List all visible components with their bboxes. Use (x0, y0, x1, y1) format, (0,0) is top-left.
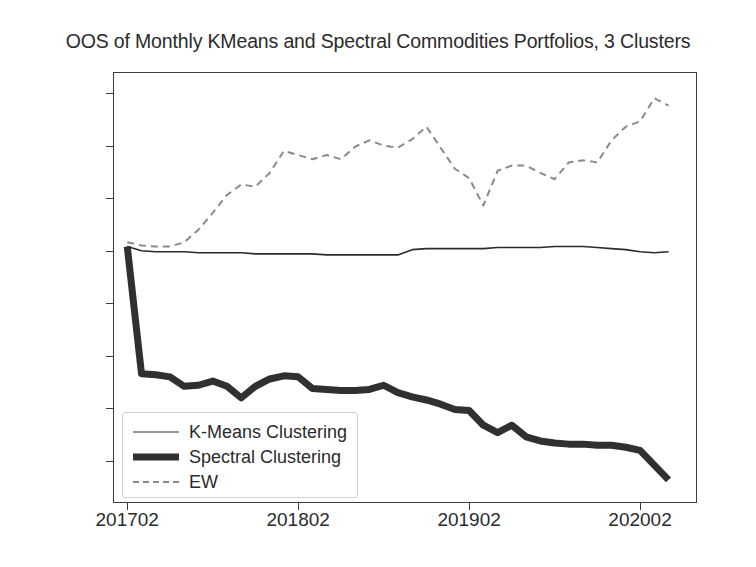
chart-legend: K-Means ClusteringSpectral ClusteringEW (122, 412, 358, 498)
x-axis-tick-label: 201902 (437, 509, 500, 531)
y-axis-tick-mark (106, 461, 113, 462)
y-axis-tick-mark (106, 356, 113, 357)
y-axis-tick-mark (106, 408, 113, 409)
legend-item[interactable]: K-Means Clustering (133, 420, 347, 444)
chart-figure: OOS of Monthly KMeans and Spectral Commo… (0, 0, 756, 567)
x-axis-tick-mark (640, 503, 641, 510)
chart-title: OOS of Monthly KMeans and Spectral Commo… (0, 30, 756, 53)
series-line (127, 98, 668, 246)
y-axis-tick-mark (106, 198, 113, 199)
legend-item-label: Spectral Clustering (189, 447, 341, 468)
x-axis-tick-label: 202002 (608, 509, 671, 531)
legend-item[interactable]: Spectral Clustering (133, 445, 341, 469)
y-axis-tick-mark (106, 303, 113, 304)
x-axis-tick-mark (469, 503, 470, 510)
legend-item-label: EW (189, 472, 218, 493)
legend-line-swatch-icon (133, 472, 179, 492)
x-axis-tick-label: 201802 (266, 509, 329, 531)
y-axis-tick-mark (106, 93, 113, 94)
x-axis-tick-mark (298, 503, 299, 510)
legend-line-swatch-icon (133, 422, 179, 442)
y-axis-tick-mark (106, 251, 113, 252)
series-line (127, 247, 668, 255)
legend-line-swatch-icon (133, 447, 179, 467)
legend-item-label: K-Means Clustering (189, 422, 347, 443)
x-axis-tick-label: 201702 (96, 509, 159, 531)
legend-item[interactable]: EW (133, 470, 218, 494)
x-axis-tick-mark (127, 503, 128, 510)
y-axis-tick-mark (106, 146, 113, 147)
